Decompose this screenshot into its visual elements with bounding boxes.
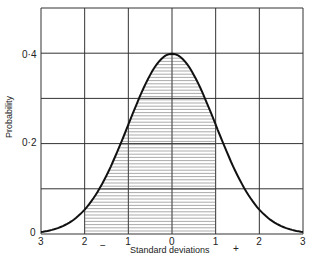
x-tick: 3 <box>300 236 306 247</box>
y-tick-0.2: 0·2 <box>22 137 36 148</box>
x-tick: 2 <box>82 236 88 247</box>
positive-sign: + <box>233 243 239 254</box>
negative-sign: − <box>100 240 106 251</box>
x-tick: 2 <box>256 236 262 247</box>
y-axis-label: Probability <box>4 96 14 138</box>
x-tick: 3 <box>38 236 44 247</box>
x-axis-label: Standard deviations <box>130 245 210 255</box>
x-tick: 1 <box>213 236 219 247</box>
y-tick-0: 0 <box>30 227 36 238</box>
y-tick-0.4: 0·4 <box>22 49 36 60</box>
normal-curve-chart <box>0 0 317 264</box>
